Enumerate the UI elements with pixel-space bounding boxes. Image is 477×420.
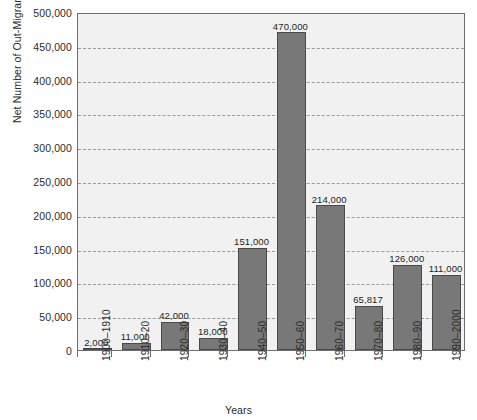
plot-area <box>77 13 465 351</box>
y-axis-tick-label: 150,000 <box>0 245 72 255</box>
bar-value-label: 470,000 <box>264 22 317 32</box>
bar-value-label: 214,000 <box>303 195 356 205</box>
plot-inner <box>78 14 464 350</box>
x-axis-tick-label: 1990–2000 <box>451 309 462 361</box>
x-axis-tick-label: 1980–90 <box>412 321 423 361</box>
y-axis-tick-label: 100,000 <box>0 278 72 288</box>
x-axis-tick-label: 1950–60 <box>295 321 306 361</box>
x-axis-tick <box>77 351 78 357</box>
bar <box>277 32 306 350</box>
x-axis-tick-label: 1910–20 <box>140 321 151 361</box>
y-axis-tick-label: 500,000 <box>0 8 72 18</box>
bar-value-label: 111,000 <box>419 264 472 274</box>
y-axis-tick-label: 400,000 <box>0 76 72 86</box>
bar-value-label: 65,817 <box>342 295 395 305</box>
bar-value-label: 18,000 <box>186 327 239 337</box>
x-axis-tick-label: 1940–50 <box>257 321 268 361</box>
gridline <box>78 48 464 49</box>
gridline <box>78 183 464 184</box>
bar-value-label: 151,000 <box>225 237 278 247</box>
bar-value-label: 42,000 <box>148 311 201 321</box>
x-axis-tick-label: 1930–40 <box>218 321 229 361</box>
y-axis-tick-label: 200,000 <box>0 211 72 221</box>
chart-title-clipped <box>77 0 465 1</box>
x-axis-tick-label: 1960–70 <box>334 321 345 361</box>
bar-value-label: 11,000 <box>109 332 162 342</box>
y-axis-tick-label: 450,000 <box>0 42 72 52</box>
gridline <box>78 115 464 116</box>
x-axis-tick-label: 1970–80 <box>373 321 384 361</box>
y-axis-tick-label: 0 <box>0 346 72 356</box>
gridline <box>78 251 464 252</box>
y-axis-tick-label: 350,000 <box>0 109 72 119</box>
y-axis-tick-label: 300,000 <box>0 143 72 153</box>
gridline <box>78 217 464 218</box>
y-axis-tick-labels: 050,000100,000150,000200,000250,000300,0… <box>0 0 72 420</box>
gridline <box>78 82 464 83</box>
y-axis-tick-label: 50,000 <box>0 312 72 322</box>
bar-value-label: 126,000 <box>380 254 433 264</box>
x-axis-title: Years <box>0 404 477 416</box>
bar-chart-figure: Net Number of Out-Migrants 050,000100,00… <box>0 0 477 420</box>
y-axis-tick-label: 250,000 <box>0 177 72 187</box>
gridline <box>78 149 464 150</box>
